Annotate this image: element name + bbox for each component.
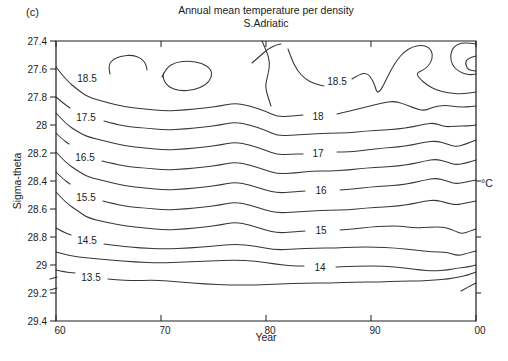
contour-line [451, 43, 476, 75]
y-tick-label: 27.6 [28, 64, 48, 75]
title-block: Annual mean temperature per density S.Ad… [30, 4, 502, 30]
contour-label: 18.5 [77, 73, 97, 84]
contour-line [104, 121, 476, 136]
contour-line [56, 228, 71, 235]
y-tick-label: 28.6 [28, 204, 48, 215]
contour-label: 13.5 [81, 272, 101, 283]
y-tick-label: 29.2 [28, 288, 48, 299]
contour-label: 17.5 [76, 112, 96, 123]
y-tick-label: 29 [36, 260, 48, 271]
chart-subtitle: S.Adriatic [30, 17, 502, 30]
contour-line [340, 226, 476, 233]
contour-line [104, 244, 476, 255]
contour-line [56, 252, 304, 266]
contour-label: 18 [312, 111, 324, 122]
y-tick-label: 29.4 [28, 316, 48, 327]
contour-line [109, 55, 147, 74]
contour-line [56, 172, 70, 184]
contour-plot-svg: 18.518.51817.51716.51615.51514.51413.560… [0, 0, 508, 361]
contour-line [103, 200, 476, 212]
y-tick-label: 28 [36, 120, 48, 131]
contour-label: 14 [314, 262, 326, 273]
contour-line [336, 265, 476, 271]
contour-label: 16.5 [75, 152, 95, 163]
contour-label: 18.5 [327, 76, 347, 87]
contour-line [56, 97, 70, 108]
contour-line [56, 133, 69, 144]
contour-figure: 18.518.51817.51716.51615.51514.51413.560… [0, 0, 508, 361]
contour-line [337, 102, 476, 114]
x-axis-label: Year [30, 331, 502, 343]
contour-line [337, 140, 476, 152]
contour-line [162, 61, 212, 90]
y-tick-label: 28.2 [28, 148, 48, 159]
contour-line [288, 49, 324, 86]
contour-label: 14.5 [77, 235, 97, 246]
contour-label: 16 [315, 185, 327, 196]
y-tick-label: 27.8 [28, 92, 48, 103]
contour-label: 17 [312, 148, 324, 159]
contour-line [466, 56, 476, 71]
y-tick-label: 27.4 [28, 36, 48, 47]
y-axis-label: Sigma-theta [11, 141, 23, 221]
unit-label: °C [481, 177, 493, 189]
chart-title: Annual mean temperature per density [30, 4, 502, 17]
contour-line [461, 283, 476, 291]
contour-label: 15 [315, 225, 327, 236]
contour-label: 15.5 [76, 192, 96, 203]
contour-line [108, 272, 476, 285]
contour-line [102, 160, 476, 174]
y-tick-label: 28.8 [28, 232, 48, 243]
y-tick-label: 28.4 [28, 176, 48, 187]
contour-line [340, 179, 476, 190]
contour-line [56, 270, 75, 273]
